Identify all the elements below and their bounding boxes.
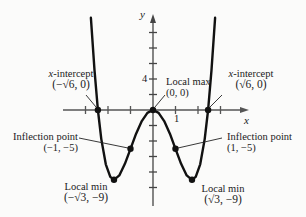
annotation-local-min-left: Local min (−√3, −9) — [58, 181, 114, 203]
x-tick-label-1: 1 — [174, 113, 179, 124]
annotation-x-intercept-right: x-intercept (√6, 0) — [220, 68, 282, 90]
annotation-inflection-left: Inflection point (−1, −5) — [2, 131, 78, 153]
x-intercept-right-point — [205, 107, 211, 113]
y-axis-arrow-icon — [150, 14, 156, 23]
x-intercept-left-point — [95, 107, 101, 113]
inflection-right-point — [172, 146, 178, 152]
annotation-local-min-right: Local min (√3, −9) — [195, 183, 251, 205]
x-axis-label: x — [244, 115, 249, 126]
local-max-point — [150, 107, 156, 113]
inflection-left-point — [127, 146, 133, 152]
annotation-x-intercept-left: x-intercept (−√6, 0) — [40, 68, 102, 90]
y-axis-label: y — [140, 9, 145, 20]
function-graph — [0, 0, 306, 217]
y-tick-label-4: 4 — [142, 73, 147, 84]
annotation-inflection-right: Inflection point (1, −5) — [227, 131, 292, 153]
x-axis-arrow-icon — [240, 107, 249, 113]
annotation-local-max: Local max (0, 0) — [166, 76, 211, 98]
